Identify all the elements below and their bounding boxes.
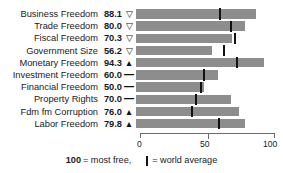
- score-bar: [136, 70, 218, 79]
- chart-row: Monetary Freedom94.3▲: [0, 57, 283, 69]
- trend-down-icon: ▽: [122, 46, 136, 56]
- score-bar: [136, 21, 245, 30]
- row-category-label: Government Size: [0, 46, 101, 56]
- row-score-value: 50.0: [101, 82, 122, 92]
- row-score-value: 70.0: [101, 94, 122, 104]
- row-plot-area: [136, 20, 272, 32]
- economic-freedom-bar-chart: Business Freedom88.1▽Trade Freedom80.0▽F…: [0, 0, 283, 173]
- row-plot-area: [136, 118, 272, 130]
- trend-flat-icon: —: [122, 94, 136, 104]
- chart-row: Government Size56.2▽: [0, 45, 283, 57]
- world-average-tick: [219, 8, 221, 19]
- row-plot-area: [136, 69, 272, 81]
- score-bar: [136, 34, 232, 43]
- chart-row: Fdm fm Corruption76.0▲: [0, 106, 283, 118]
- row-score-value: 94.3: [101, 58, 122, 68]
- row-category-label: Trade Freedom: [0, 21, 101, 31]
- row-score-value: 60.0: [101, 70, 122, 80]
- row-plot-area: [136, 8, 272, 20]
- row-category-label: Monetary Freedom: [0, 58, 101, 68]
- chart-row: Trade Freedom80.0▽: [0, 20, 283, 32]
- row-category-label: Business Freedom: [0, 9, 101, 19]
- row-score-value: 76.0: [101, 107, 122, 117]
- score-bar: [136, 58, 264, 67]
- row-plot-area: [136, 45, 272, 57]
- chart-row: Fiscal Freedom70.3▽: [0, 32, 283, 44]
- row-category-label: Labor Freedom: [0, 119, 101, 129]
- x-axis-tick-label-50: 50: [200, 139, 210, 149]
- trend-down-icon: ▽: [122, 33, 136, 43]
- trend-up-icon: ▲: [122, 107, 136, 117]
- chart-legend-footnote: 100 = most free, = world average: [0, 155, 283, 166]
- x-axis-tick-label-100: 100: [263, 139, 277, 149]
- world-average-tick: [195, 94, 197, 105]
- world-average-tick: [234, 33, 236, 44]
- row-plot-area: [136, 57, 272, 69]
- world-average-tick: [223, 45, 225, 56]
- x-axis: [140, 133, 275, 138]
- world-average-tick: [230, 21, 232, 32]
- trend-down-icon: ▽: [122, 21, 136, 31]
- row-plot-area: [136, 93, 272, 105]
- row-score-value: 79.8: [101, 119, 122, 129]
- row-plot-area: [136, 32, 272, 44]
- x-axis-tick-label-0: 0: [137, 139, 142, 149]
- row-category-label: Investment Freedom: [0, 70, 101, 80]
- score-bar: [136, 82, 204, 91]
- trend-flat-icon: —: [122, 82, 136, 92]
- world-average-tick: [236, 57, 238, 68]
- row-score-value: 70.3: [101, 33, 122, 43]
- row-score-value: 80.0: [101, 21, 122, 31]
- score-bar: [136, 46, 212, 55]
- chart-row: Property Rights70.0—: [0, 93, 283, 105]
- trend-down-icon: ▽: [122, 9, 136, 19]
- legend-world-average-label: = world average: [152, 155, 217, 166]
- row-category-label: Property Rights: [0, 94, 101, 104]
- legend-most-free-number: 100: [66, 155, 81, 166]
- score-bar: [136, 95, 231, 104]
- row-plot-area: [136, 81, 272, 93]
- clipped-title-remnant: [0, 0, 120, 5]
- score-bar: [136, 119, 245, 128]
- row-plot-area: [136, 106, 272, 118]
- row-category-label: Financial Freedom: [0, 82, 101, 92]
- chart-rows: Business Freedom88.1▽Trade Freedom80.0▽F…: [0, 8, 283, 130]
- trend-up-icon: ▲: [122, 119, 136, 129]
- world-average-tick: [191, 106, 193, 117]
- chart-row: Financial Freedom50.0—: [0, 81, 283, 93]
- row-score-value: 56.2: [101, 46, 122, 56]
- row-score-value: 88.1: [101, 9, 122, 19]
- trend-flat-icon: —: [122, 70, 136, 80]
- trend-up-icon: ▲: [122, 58, 136, 68]
- world-average-marker-icon: [146, 156, 148, 166]
- chart-row: Labor Freedom79.8▲: [0, 118, 283, 130]
- score-bar: [136, 107, 239, 116]
- score-bar: [136, 9, 256, 18]
- world-average-tick: [218, 118, 220, 129]
- row-category-label: Fiscal Freedom: [0, 33, 101, 43]
- chart-row: Business Freedom88.1▽: [0, 8, 283, 20]
- legend-most-free-label: = most free,: [83, 155, 131, 166]
- chart-row: Investment Freedom60.0—: [0, 69, 283, 81]
- row-category-label: Fdm fm Corruption: [0, 107, 101, 117]
- world-average-tick: [203, 69, 205, 80]
- world-average-tick: [200, 82, 202, 93]
